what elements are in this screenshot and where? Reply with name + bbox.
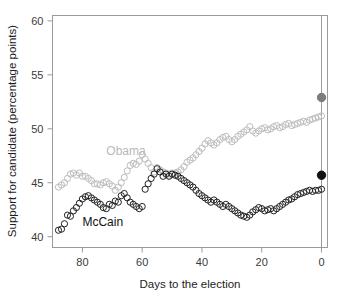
data-point-mccain [76, 200, 82, 206]
y-tick-label: 55 [31, 69, 43, 81]
plot-border [53, 16, 328, 248]
x-tick-label: 80 [76, 256, 88, 268]
x-tick-label: 0 [318, 256, 324, 268]
y-tick-label: 50 [31, 123, 43, 135]
data-point-mccain [61, 221, 67, 227]
x-axis-title: Days to the election [139, 278, 240, 290]
y-tick-label: 60 [31, 15, 43, 27]
x-tick-label: 40 [196, 256, 208, 268]
data-point-mccain [124, 195, 130, 201]
election-polling-chart: 4045505560 806040200 Obama McCain Days t… [0, 0, 340, 298]
data-point-obama [148, 165, 154, 171]
y-axis-title: Support for candidate (percentage points… [6, 25, 18, 237]
series-label-mccain: McCain [82, 215, 123, 229]
x-axis-tick-labels: 806040200 [76, 256, 324, 268]
obama-final-result-marker [317, 93, 325, 101]
y-tick-label: 40 [31, 231, 43, 243]
x-axis-ticks [82, 248, 321, 253]
y-tick-label: 45 [31, 177, 43, 189]
data-point-obama [64, 175, 70, 181]
data-point-obama [121, 174, 127, 180]
y-axis-tick-labels: 4045505560 [31, 15, 43, 243]
plot-frame [53, 16, 328, 248]
x-tick-label: 60 [136, 256, 148, 268]
series-label-obama: Obama [106, 144, 146, 158]
x-tick-label: 20 [256, 256, 268, 268]
mccain-final-result-marker [317, 171, 325, 179]
chart-canvas: 4045505560 806040200 Obama McCain Days t… [0, 0, 340, 298]
y-axis-ticks [48, 21, 53, 237]
data-point-obama [145, 160, 151, 166]
data-point-mccain [148, 175, 154, 181]
